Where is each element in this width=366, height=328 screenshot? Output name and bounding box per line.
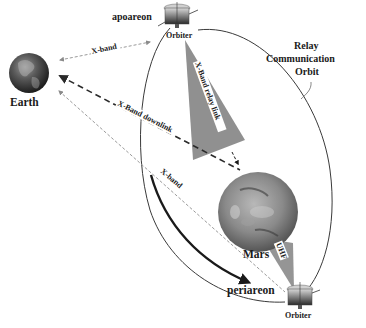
orbiter-apoareon-label: Orbiter — [166, 31, 193, 40]
orbiter-periareon-label: Orbiter — [285, 311, 312, 320]
earth-label: Earth — [10, 96, 39, 108]
link-downlink-label: X-Band downlink — [116, 99, 175, 135]
mars — [218, 172, 298, 252]
orbiter-apoareon — [158, 2, 198, 28]
orbiter-periareon — [287, 282, 320, 309]
mars-label: Mars — [243, 248, 270, 260]
orbit-label-line1: Relay — [294, 40, 318, 51]
orbit-label-line3: Orbit — [295, 66, 320, 77]
apoareon-label: apoareon — [112, 11, 152, 22]
relay-arrow — [232, 152, 238, 164]
orbit-label-line2: Communication — [266, 53, 335, 64]
orbit-label-pointer — [301, 82, 311, 99]
relay-communication-diagram: Earth Mars apoareon Orbiter periareon Or… — [0, 0, 366, 328]
link-earth-apoareon-label: X-band — [91, 42, 119, 56]
earth — [9, 53, 49, 93]
link-earth-periareon-label: X-band — [159, 167, 185, 191]
periareon-label: periareon — [227, 284, 275, 297]
